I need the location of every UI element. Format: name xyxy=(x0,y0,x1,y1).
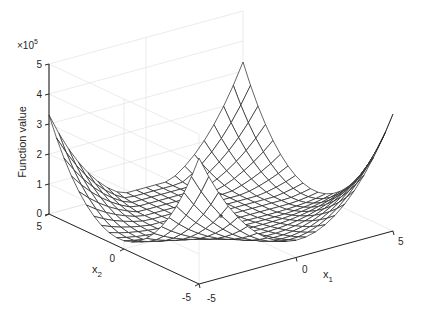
z-tick-mark xyxy=(45,154,49,155)
surface-face xyxy=(349,169,366,191)
z-tick-mark xyxy=(45,94,49,95)
x1-tick-mark xyxy=(296,258,297,262)
z-tick-2: 2 xyxy=(36,149,42,160)
z-tick-mark xyxy=(45,124,49,125)
z-axis-label: Function value xyxy=(16,106,28,178)
z-tick-5: 5 xyxy=(36,59,42,70)
surface-face xyxy=(366,137,383,169)
z-exponent: 5 xyxy=(34,38,38,45)
x1-tick-mark xyxy=(393,231,394,235)
z-tick-3: 3 xyxy=(36,119,42,130)
x2-tick-mark xyxy=(195,284,199,286)
z-tick-mark xyxy=(45,64,49,65)
x1-tick-5: 5 xyxy=(398,236,404,247)
x2-axis-label: x2 xyxy=(92,263,103,279)
x1-tick-neg5: -5 xyxy=(207,293,216,304)
x1-axis-label: x1 xyxy=(323,268,334,284)
z-tick-4: 4 xyxy=(36,89,42,100)
marker-symbol: * xyxy=(219,213,223,224)
x1-tick-0: 0 xyxy=(302,264,308,275)
surface-face xyxy=(356,157,373,184)
minimum-marker: * xyxy=(219,213,223,224)
x2-tick-0: 0 xyxy=(109,253,115,264)
z-tick-0: 0 xyxy=(36,208,42,219)
z-tick-1: 1 xyxy=(36,179,42,190)
x2-tick-mark xyxy=(120,249,124,251)
x1-tick-mark xyxy=(199,284,200,288)
x2-tick-5: 5 xyxy=(36,221,42,232)
z-exponent-label: ×105 xyxy=(17,38,38,51)
z-tick-mark xyxy=(45,184,49,185)
surface-plot: * ×105 Function value 5 4 3 2 1 0 5 0 -5… xyxy=(0,0,421,315)
x2-tick-neg5: -5 xyxy=(182,292,191,303)
surface-face xyxy=(49,115,66,152)
